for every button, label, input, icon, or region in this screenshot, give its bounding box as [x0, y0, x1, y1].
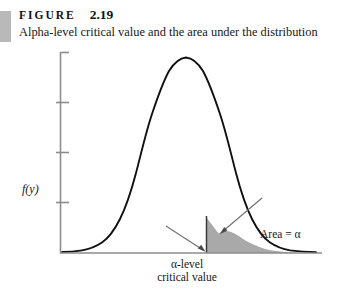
normal-distribution-curve [62, 58, 316, 253]
critical-leader-arrowhead [198, 245, 206, 252]
critical-value-annotation: α-level critical value [144, 258, 230, 284]
critical-value-annotation-line1: α-level [144, 258, 230, 271]
distribution-chart-svg [0, 42, 338, 290]
figure-header: FIGURE 2.19 [19, 7, 329, 23]
critical-leader-line [166, 226, 203, 250]
y-axis-label: f(y) [22, 182, 39, 197]
figure-label: FIGURE [19, 9, 76, 21]
figure-page: FIGURE 2.19 Alpha-level critical value a… [0, 0, 338, 290]
area-annotation-label: Area = α [260, 228, 301, 240]
chart-plot-area: f(y) y Area = α y(α) α-level critical va… [0, 42, 338, 290]
figure-caption: Alpha-level critical value and the area … [19, 25, 334, 39]
critical-value-annotation-line2: critical value [144, 271, 230, 284]
figure-number: 2.19 [90, 7, 114, 23]
page-bleed-mark [0, 11, 11, 42]
